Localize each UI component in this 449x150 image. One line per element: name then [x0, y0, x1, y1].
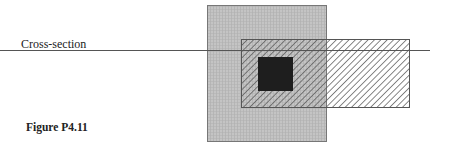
cross-section-label: Cross-section [21, 37, 86, 52]
figure-caption: Figure P4.11 [26, 121, 88, 133]
black-square [258, 57, 293, 91]
